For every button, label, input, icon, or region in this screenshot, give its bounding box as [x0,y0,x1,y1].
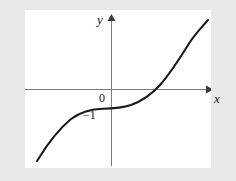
cubic-curve [37,20,208,161]
origin-label: 0 [99,92,105,104]
x-axis-arrowhead [206,86,213,94]
plot-svg [0,0,236,181]
x-axis-label: x [214,92,220,105]
y-axis-label: y [97,13,103,26]
y-axis-arrowhead [108,14,116,21]
y-tick-label-minus-one: −1 [83,109,96,121]
figure-container: y x 0 −1 [0,0,236,181]
